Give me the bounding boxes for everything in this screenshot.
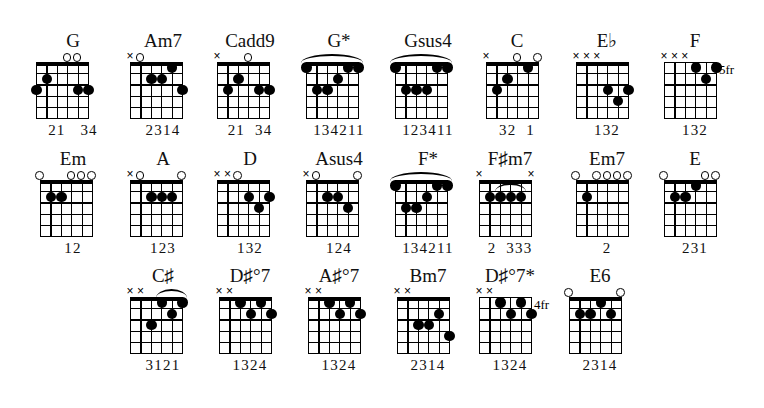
nut-line	[217, 62, 270, 66]
string-line	[130, 297, 131, 353]
string-line	[569, 297, 570, 353]
muted-string-icon	[485, 286, 494, 296]
fret-line	[130, 319, 183, 320]
string-markers	[28, 169, 118, 180]
string-markers	[465, 169, 555, 180]
string-line	[217, 180, 218, 236]
chord-grid-area	[294, 169, 384, 243]
fret-line	[130, 236, 183, 237]
string-line	[716, 180, 717, 236]
string-line	[607, 180, 608, 236]
fretboard-grid	[217, 62, 269, 118]
fingering-numbers: 134211	[294, 122, 384, 138]
chord-diagram[interactable]: Em72	[562, 148, 652, 243]
chord-diagram[interactable]: F*134211	[383, 148, 473, 243]
chord-diagram[interactable]: G21 34	[28, 30, 118, 125]
string-markers	[562, 51, 652, 62]
fret-line	[479, 331, 532, 332]
finger-dot	[603, 85, 614, 96]
finger-dot	[444, 331, 455, 342]
open-string-icon	[571, 171, 580, 180]
chord-diagram[interactable]: C♯3121	[118, 265, 208, 360]
chord-diagram[interactable]: G*134211	[294, 30, 384, 125]
chord-diagram[interactable]: Bm72314	[383, 265, 473, 360]
string-line	[576, 62, 577, 118]
chord-diagram[interactable]: F5fr132	[650, 30, 740, 125]
muted-string-icon	[225, 286, 234, 296]
chord-diagram[interactable]: D♯°71324	[205, 265, 295, 360]
fret-line	[40, 214, 93, 215]
finger-dot	[353, 62, 364, 73]
string-line	[227, 180, 228, 236]
string-line	[130, 180, 131, 236]
string-line	[538, 62, 539, 118]
finger-dot	[442, 62, 453, 73]
chord-diagram[interactable]: A♯°71324	[294, 265, 384, 360]
chord-diagram[interactable]: F♯m72 333	[465, 148, 555, 243]
open-string-icon	[177, 171, 186, 180]
finger-dot	[42, 74, 53, 85]
finger-dot	[83, 85, 94, 96]
fret-line	[479, 319, 532, 320]
chord-chart: G21 34Am72314Cadd921 34G*134211Gsus41234…	[0, 0, 764, 408]
string-line	[621, 297, 622, 353]
chord-diagram[interactable]: Em12	[28, 148, 118, 243]
fret-line	[479, 202, 532, 203]
fret-line	[217, 118, 270, 119]
chord-diagram[interactable]: D♯°7*4fr1324	[465, 265, 555, 360]
finger-dot	[401, 85, 412, 96]
nut-line	[576, 180, 629, 184]
fret-line	[40, 225, 93, 226]
finger-dot	[157, 74, 168, 85]
chord-diagram[interactable]: E♭132	[562, 30, 652, 125]
fingering-numbers: 3121	[118, 357, 208, 373]
open-string-icon	[564, 288, 573, 297]
string-line	[510, 297, 511, 353]
fret-line	[217, 225, 270, 226]
finger-dot	[322, 192, 333, 203]
string-line	[161, 62, 162, 118]
chord-diagram[interactable]: C32 1	[472, 30, 562, 125]
chord-diagram[interactable]: Gsus4123411	[383, 30, 473, 125]
chord-diagram[interactable]: E231	[650, 148, 740, 243]
fretboard-grid	[130, 297, 182, 353]
chord-name: C	[472, 30, 562, 51]
chord-name: F♯m7	[465, 148, 555, 169]
string-line	[161, 180, 162, 236]
chord-diagram[interactable]: A123	[118, 148, 208, 243]
finger-dot	[157, 192, 168, 203]
finger-dot	[585, 309, 596, 320]
chord-diagram[interactable]: D132	[205, 148, 295, 243]
chord-diagram[interactable]: Am72314	[118, 30, 208, 125]
muted-string-icon	[126, 286, 135, 296]
finger-dot	[422, 85, 433, 96]
fret-line	[395, 225, 448, 226]
fingering-numbers: 134211	[383, 240, 473, 256]
fret-line	[308, 308, 361, 309]
fret-line	[569, 342, 622, 343]
chord-diagram[interactable]: Asus4124	[294, 148, 384, 243]
finger-dot	[596, 297, 607, 308]
chord-grid-area	[465, 169, 555, 243]
finger-dot	[177, 297, 188, 308]
fret-line	[217, 107, 270, 108]
finger-dot	[606, 309, 617, 320]
fret-line	[130, 118, 183, 119]
open-string-icon	[233, 171, 242, 180]
chord-name: A	[118, 148, 208, 169]
muted-string-icon	[136, 286, 145, 296]
string-line	[590, 297, 591, 353]
chord-diagram[interactable]: E62314	[555, 265, 645, 360]
finger-dot	[312, 85, 323, 96]
finger-dot	[495, 297, 506, 308]
fret-line	[306, 225, 359, 226]
fret-line	[664, 107, 717, 108]
string-markers	[650, 169, 740, 180]
finger-dot	[244, 192, 255, 203]
string-line	[238, 62, 239, 118]
fret-line	[130, 96, 183, 97]
chord-name: Am7	[118, 30, 208, 51]
chord-diagram[interactable]: Cadd921 34	[205, 30, 295, 125]
finger-dot	[167, 192, 178, 203]
fret-line	[664, 96, 717, 97]
